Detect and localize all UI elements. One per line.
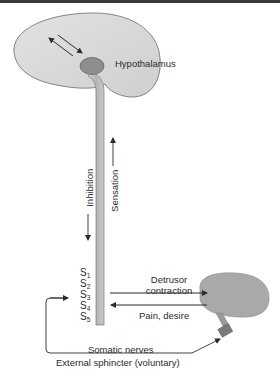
hypothalamus-label: Hypothalamus	[115, 59, 176, 69]
hypothalamus-shape	[80, 58, 104, 75]
bladder-shape	[200, 273, 269, 317]
micturition-diagram	[0, 0, 280, 379]
pain-desire-label: Pain, desire	[139, 311, 189, 321]
segment-s5: S5	[80, 312, 90, 324]
sensation-label: Sensation	[110, 168, 120, 214]
somatic-nerves-label: Somatic nerves	[88, 345, 153, 355]
detrusor-label: Detrusor contraction	[137, 274, 201, 296]
detrusor-label-line2: contraction	[137, 285, 201, 296]
inhibition-label: Inhibition	[85, 166, 95, 210]
external-sphincter-label: External sphincter (voluntary)	[56, 358, 180, 368]
brain-shape	[14, 13, 160, 97]
detrusor-label-line1: Detrusor	[137, 274, 201, 285]
external-sphincter	[218, 324, 233, 338]
